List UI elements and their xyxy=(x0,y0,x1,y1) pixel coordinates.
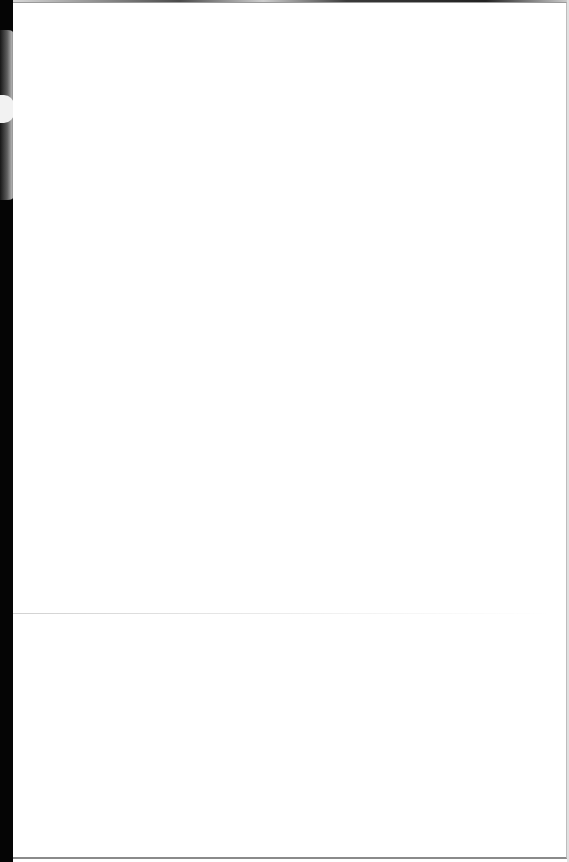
blank-page xyxy=(13,2,567,859)
fold-line xyxy=(13,613,553,614)
paper-notch xyxy=(0,95,14,123)
page-content xyxy=(53,43,526,817)
